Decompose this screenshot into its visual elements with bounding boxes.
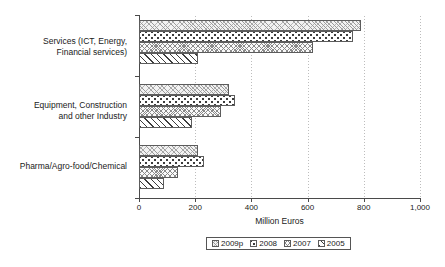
bar-equipment-2007	[139, 106, 221, 117]
x-tick-1000	[420, 198, 421, 202]
bar-equipment-2005	[139, 117, 192, 128]
category-label-pharma-line1: Pharma/Agro-food/Chemical	[0, 161, 127, 172]
y-tick-1	[135, 76, 140, 77]
category-label-equipment-line2: and other Industry	[0, 111, 127, 122]
bar-equipment-2009p	[139, 84, 229, 95]
bar-equipment-2008	[139, 95, 235, 106]
y-tick-top	[135, 15, 140, 16]
legend-swatch-2008-icon	[250, 240, 257, 247]
x-tick-600	[308, 198, 309, 202]
category-label-services-line2: Financial services)	[0, 47, 127, 58]
bar-services-2007	[139, 42, 313, 53]
legend-swatch-2005-icon	[318, 240, 325, 247]
bar-pharma-2007	[139, 167, 178, 178]
x-tick-label-200: 200	[175, 203, 215, 213]
x-axis-title: Million Euros	[139, 216, 420, 226]
legend-label-2007: 2007	[293, 239, 311, 248]
x-tick-label-400: 400	[231, 203, 271, 213]
legend-item-2008[interactable]: 2008	[250, 239, 277, 248]
category-label-services: Services (ICT, Energy, Financial service…	[0, 36, 127, 58]
bar-pharma-2005	[139, 178, 164, 189]
category-label-equipment: Equipment, Construction and other Indust…	[0, 100, 127, 122]
legend-swatch-2007-icon	[284, 240, 291, 247]
bar-services-2008	[139, 31, 353, 42]
x-tick-400	[251, 198, 252, 202]
category-label-equipment-line1: Equipment, Construction	[0, 100, 127, 111]
category-label-services-line1: Services (ICT, Energy,	[0, 36, 127, 47]
gridline-1000	[420, 16, 421, 198]
legend-label-2005: 2005	[327, 239, 345, 248]
legend-item-2005[interactable]: 2005	[318, 239, 345, 248]
bar-pharma-2009p	[139, 145, 198, 156]
legend-label-2009p: 2009p	[221, 239, 243, 248]
gridline-800	[364, 16, 365, 198]
chart-legend: 2009p 2008 2007 2005	[206, 237, 351, 250]
x-tick-label-0: 0	[119, 203, 159, 213]
category-label-pharma: Pharma/Agro-food/Chemical	[0, 161, 127, 172]
x-axis-line	[139, 198, 421, 199]
bar-chart: Services (ICT, Energy, Financial service…	[0, 0, 445, 267]
bar-services-2005	[139, 53, 198, 64]
legend-label-2008: 2008	[259, 239, 277, 248]
x-tick-0	[139, 198, 140, 202]
x-tick-label-1000: 1,000	[400, 203, 440, 213]
x-tick-200	[195, 198, 196, 202]
legend-item-2007[interactable]: 2007	[284, 239, 311, 248]
y-tick-2	[135, 137, 140, 138]
bar-services-2009p	[139, 20, 361, 31]
x-tick-label-800: 800	[344, 203, 384, 213]
x-tick-label-600: 600	[288, 203, 328, 213]
x-tick-800	[364, 198, 365, 202]
bar-pharma-2008	[139, 156, 204, 167]
legend-swatch-2009p-icon	[212, 240, 219, 247]
legend-item-2009p[interactable]: 2009p	[212, 239, 243, 248]
